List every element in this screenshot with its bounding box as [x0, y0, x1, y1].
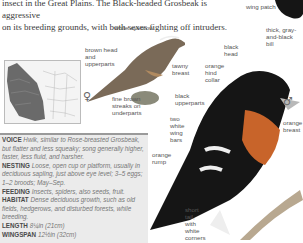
male-symbol: ♂	[283, 95, 293, 108]
info-nesting: NESTING Loose, open cup or platform, usu…	[2, 162, 142, 186]
female-symbol: ♀	[83, 90, 91, 103]
range-map	[4, 60, 81, 124]
label-wing-patch: wing patch	[246, 3, 276, 10]
info-feeding: FEEDING Insects, spiders, also seeds, fr…	[2, 188, 125, 195]
label-orange-breast: orange breast	[283, 119, 303, 133]
label-fine-streaks: fine brown streaks on underparts	[112, 95, 152, 116]
info-voice: VOICE Hwik, similar to Rose-breasted Gro…	[2, 136, 144, 160]
label-brown-head: brown head and upperparts	[85, 46, 119, 67]
info-length: LENGTH 8¼in (21cm)	[2, 222, 65, 229]
info-habitat: HABITAT Dense deciduous growth, such as …	[2, 196, 135, 220]
intro-line-1: insect in the Great Plains. The Black-he…	[2, 0, 242, 21]
label-bill: thick, gray-and-black bill	[266, 26, 302, 47]
label-white-eyebrow: white eyebrow	[114, 24, 154, 31]
info-text: VOICE Hwik, similar to Rose-breasted Gro…	[2, 136, 148, 239]
label-orange-rump: orange rump	[152, 151, 174, 165]
label-wing-bars: two white wing bars	[170, 115, 190, 143]
label-hind-collar: orange hind collar	[205, 62, 229, 83]
info-wingspan: WINGSPAN 12½in (32cm)	[2, 231, 76, 238]
label-black-upperparts: black upperparts	[175, 92, 211, 106]
label-short-tail: short tail, with white corners	[185, 206, 207, 241]
label-black-head: black head	[224, 43, 244, 57]
